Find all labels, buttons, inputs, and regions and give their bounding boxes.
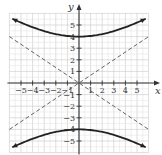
y-tick-label: 4 <box>70 33 75 42</box>
y-tick-label: 2 <box>70 56 75 65</box>
x-tick-label: −4 <box>27 86 39 95</box>
y-tick-label: −2 <box>63 102 75 111</box>
hyperbola-chart: −5−4−3−2−112345−5−4−3−2−112345 x y <box>0 0 162 155</box>
x-tick-label: −5 <box>15 86 27 95</box>
x-tick-label: 5 <box>134 86 139 95</box>
y-tick-label: −1 <box>63 91 75 100</box>
y-tick-label: −4 <box>63 125 75 134</box>
x-tick-label: −3 <box>38 86 50 95</box>
y-tick-label: −5 <box>63 137 75 146</box>
y-tick-label: 3 <box>70 44 75 53</box>
x-tick-label: 3 <box>111 86 116 95</box>
y-axis-arrow-icon <box>77 4 82 10</box>
y-axis-label: y <box>67 1 74 12</box>
x-tick-label: −2 <box>50 86 62 95</box>
x-tick-label: 2 <box>100 86 105 95</box>
y-tick-label: −3 <box>63 114 75 123</box>
x-tick-label: 4 <box>123 86 128 95</box>
y-tick-label: 1 <box>70 67 75 76</box>
y-tick-label: 5 <box>70 21 75 30</box>
x-tick-label: 1 <box>88 86 93 95</box>
x-axis-label: x <box>155 85 161 96</box>
